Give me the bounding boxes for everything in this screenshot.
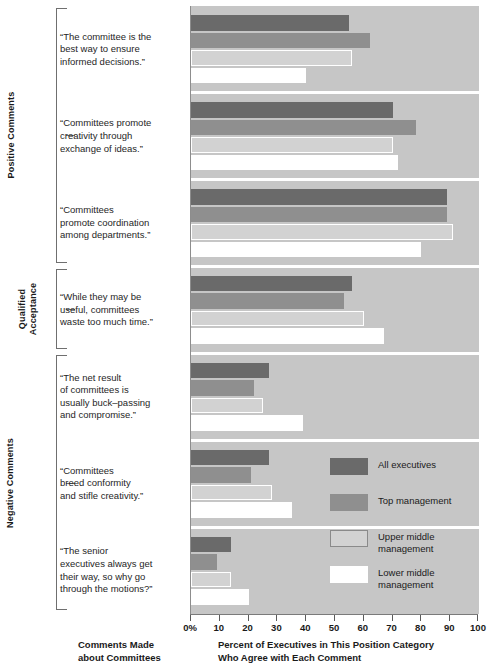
comment-label: “The committee is thebest way to ensurei… (60, 31, 190, 69)
x-tick (477, 615, 478, 621)
legend-label: All executives (378, 459, 483, 471)
x-tick (334, 615, 335, 621)
legend-label: Upper middlemanagement (378, 531, 483, 554)
bar-3 (191, 502, 292, 518)
x-tick (305, 615, 306, 621)
x-tick (420, 615, 421, 621)
bar-2 (191, 485, 272, 501)
bar-3 (191, 68, 306, 84)
bar-0 (191, 363, 269, 379)
group-label: Negative Comments (5, 438, 15, 528)
x-tick (449, 615, 450, 621)
bar-1 (191, 554, 217, 570)
x-axis-tick-labels: 0%102030405060708090100 (178, 622, 487, 636)
bar-0 (191, 450, 269, 466)
bar-3 (191, 328, 384, 344)
x-axis-line (190, 614, 478, 622)
legend-swatch (330, 530, 368, 547)
bar-0 (191, 537, 231, 553)
legend-item-4: Lower middlemanagement (330, 566, 480, 600)
comment-label: “Committees promotecreativity throughexc… (60, 117, 190, 155)
comment-label: “The seniorexecutives always gettheir wa… (60, 545, 190, 595)
legend-item-1: All executives (330, 458, 480, 492)
bar-3 (191, 589, 249, 605)
bar-1 (191, 33, 370, 49)
x-tick-label: 0% (183, 622, 197, 633)
bar-1 (191, 293, 344, 309)
group-label: Positive Comments (7, 92, 17, 179)
x-tick-label: 70 (386, 622, 397, 633)
bar-2 (191, 50, 352, 66)
comment-label: “While they may beuseful, committeeswast… (60, 291, 190, 329)
x-tick-label: 10 (214, 622, 225, 633)
legend-label: Top management (378, 495, 483, 507)
bar-0 (191, 15, 349, 31)
bar-2 (191, 137, 393, 153)
legend-label: Lower middlemanagement (378, 567, 483, 590)
bar-2 (191, 311, 364, 327)
x-tick (248, 615, 249, 621)
x-tick-label: 100 (470, 622, 486, 633)
legend-swatch (330, 458, 368, 475)
x-tick (276, 615, 277, 621)
x-tick-label: 60 (358, 622, 369, 633)
x-tick-label: 40 (300, 622, 311, 633)
x-tick-label: 80 (415, 622, 426, 633)
x-axis-caption: Percent of Executives in This Position C… (218, 639, 478, 663)
bar-0 (191, 102, 393, 118)
bar-2 (191, 398, 263, 414)
x-tick-label: 50 (329, 622, 340, 633)
bar-0 (191, 276, 352, 292)
bar-group (191, 6, 479, 93)
y-axis-caption: Comments Madeabout Committees (78, 639, 198, 663)
bar-group (191, 180, 479, 267)
bar-2 (191, 224, 453, 240)
legend-item-3: Upper middlemanagement (330, 530, 480, 564)
legend-swatch (330, 566, 368, 583)
bar-1 (191, 120, 416, 136)
bar-2 (191, 572, 231, 588)
bar-group (191, 353, 479, 440)
x-tick (219, 615, 220, 621)
bar-3 (191, 415, 303, 431)
bar-group (191, 93, 479, 180)
comment-label: “The net resultof committees isusually b… (60, 372, 190, 422)
x-tick-label: 90 (444, 622, 455, 633)
x-tick (190, 615, 191, 621)
bar-3 (191, 155, 398, 171)
x-tick (392, 615, 393, 621)
bar-group (191, 267, 479, 354)
comment-label: “Committeespromote coordinationamong dep… (60, 204, 190, 242)
x-tick-label: 30 (271, 622, 282, 633)
x-tick (363, 615, 364, 621)
bar-3 (191, 242, 421, 258)
bar-1 (191, 467, 251, 483)
bar-0 (191, 189, 447, 205)
bar-1 (191, 207, 447, 223)
comment-labels-column: “The committee is thebest way to ensurei… (60, 0, 190, 620)
comment-label: “Committeesbreed conformityand stifle cr… (60, 465, 190, 503)
bar-1 (191, 380, 254, 396)
x-tick-label: 20 (242, 622, 253, 633)
legend-swatch (330, 494, 368, 511)
group-label: QualifiedAcceptance (18, 283, 40, 336)
legend-item-2: Top management (330, 494, 480, 528)
